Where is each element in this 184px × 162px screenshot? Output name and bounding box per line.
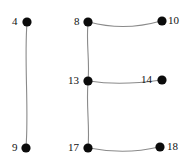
node-10[interactable] (157, 16, 166, 25)
node-label-8: 8 (74, 16, 80, 27)
edge-17-18[interactable] (89, 147, 159, 151)
edge-8-10[interactable] (89, 21, 161, 26)
node-14[interactable] (157, 75, 166, 84)
edge-8-13[interactable] (87, 24, 88, 80)
node-label-14: 14 (141, 74, 152, 85)
node-label-17: 17 (68, 142, 79, 153)
node-label-4: 4 (12, 16, 18, 27)
edge-13-17[interactable] (87, 83, 88, 147)
node-label-10: 10 (168, 15, 179, 26)
node-18[interactable] (155, 142, 164, 151)
node-label-13: 13 (68, 75, 79, 86)
node-label-9: 9 (12, 142, 18, 153)
node-8[interactable] (83, 17, 92, 26)
node-9[interactable] (21, 143, 30, 152)
graph-svg (0, 0, 184, 162)
node-17[interactable] (83, 143, 92, 152)
edge-4-9[interactable] (26, 23, 27, 147)
node-13[interactable] (83, 76, 92, 85)
edge-layer (26, 21, 161, 151)
node-4[interactable] (22, 17, 31, 26)
graph-canvas: 4 9 8 10 13 14 17 18 (0, 0, 184, 162)
node-label-18: 18 (167, 141, 178, 152)
